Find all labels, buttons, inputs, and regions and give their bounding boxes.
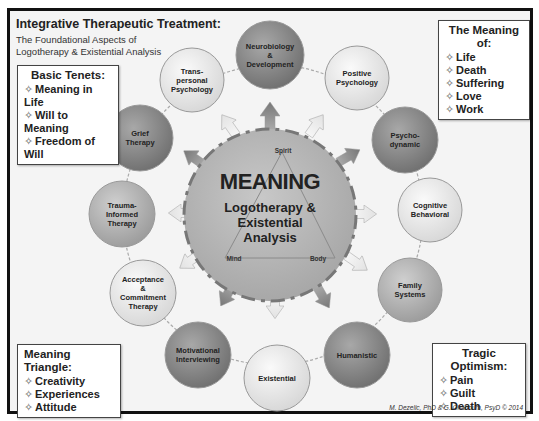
list-item: Attitude	[24, 401, 114, 414]
list-item: Death	[445, 64, 523, 77]
subtitle-line-2: Logotherapy & Existential Analysis	[16, 46, 161, 58]
node-humanistic: Humanistic	[327, 351, 387, 360]
node-neurobiology-development: Neurobiology & Development	[240, 42, 300, 69]
triangle-vertex-body: Body	[310, 255, 326, 262]
node-psychodynamic: Psycho- dynamic	[375, 131, 435, 149]
node-positive-psychology: Positive Psychology	[327, 69, 387, 87]
node-acceptance-commitment-therapy: Acceptance & Commitment Therapy	[113, 275, 173, 311]
list-item: Guilt	[439, 387, 519, 400]
list-item: Will to Meaning	[24, 109, 112, 135]
node-cognitive-behavioral: Cognitive Behavioral	[400, 201, 460, 219]
center-subtitle: Logotherapy & Existential Analysis	[210, 200, 330, 245]
center-title: MEANING	[220, 169, 320, 195]
triangle-vertex-spirit: Spirit	[275, 147, 292, 154]
node-transpersonal-psychology: Trans- personal Psychology	[162, 67, 222, 94]
triangle-vertex-mind: Mind	[226, 255, 241, 262]
node-motivational-interviewing: Motivational Interviewing	[168, 346, 228, 364]
subtitle-line-1: The Foundational Aspects of	[16, 34, 161, 46]
basic-tenets-heading: Basic Tenets:	[24, 69, 112, 82]
list-item: Life	[445, 51, 523, 64]
node-existential: Existential	[247, 374, 307, 383]
tragic-optimism-heading: Tragic Optimism:	[439, 347, 519, 373]
credit-line: M. Dezelic, PhD & G. Ghanoum, PsyD © 201…	[389, 404, 523, 411]
list-item: Work	[445, 103, 523, 116]
meaning-of-heading: The Meaning of:	[445, 24, 523, 50]
list-item: Creativity	[24, 375, 114, 388]
list-item: Freedom of Will	[24, 135, 112, 161]
basic-tenets-box: Basic Tenets: Meaning in Life Will to Me…	[17, 65, 119, 165]
meaning-of-box: The Meaning of: Life Death Suffering Lov…	[438, 20, 530, 120]
list-item: Experiences	[24, 388, 114, 401]
diagram-subtitle: The Foundational Aspects of Logotherapy …	[16, 34, 161, 58]
node-family-systems: Family Systems	[380, 281, 440, 299]
node-grief-therapy: Grief Therapy	[110, 129, 170, 147]
list-item: Meaning in Life	[24, 83, 112, 109]
diagram-title: Integrative Therapeutic Treatment:	[16, 17, 221, 31]
list-item: Love	[445, 90, 523, 103]
meaning-triangle-box: Meaning Triangle: Creativity Experiences…	[17, 344, 121, 418]
node-trauma-informed-therapy: Trauma- Informed Therapy	[92, 201, 152, 228]
list-item: Suffering	[445, 77, 523, 90]
meaning-triangle-heading: Meaning Triangle:	[24, 348, 114, 374]
list-item: Pain	[439, 374, 519, 387]
